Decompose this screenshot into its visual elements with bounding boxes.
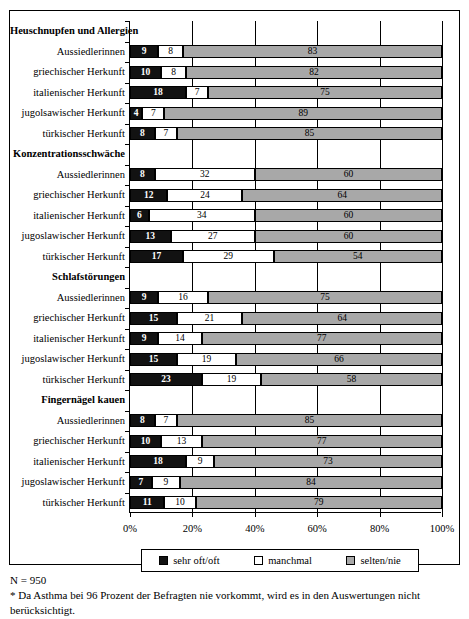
stacked-bar-row: 151966 [130, 353, 442, 366]
bar-segment-manchmal: 7 [155, 127, 177, 140]
y-axis-tick [125, 62, 130, 63]
x-axis-tick-label: 100% [430, 523, 455, 534]
bar-segment-manchmal: 24 [167, 189, 242, 202]
category-row-label: griechischer Herkunft [10, 435, 125, 447]
bar-segment-sehr-oft-oft: 8 [130, 168, 155, 181]
bar-segment-selten-nie: 60 [255, 168, 442, 181]
bar-segment-selten-nie: 83 [183, 45, 442, 58]
x-axis-tick-label: 80% [370, 523, 389, 534]
chart-footnote: N = 950 * Da Asthma bei 96 Prozent der B… [10, 573, 462, 618]
bar-segment-sehr-oft-oft: 17 [130, 250, 183, 263]
x-axis-tick [130, 512, 131, 517]
x-axis-tick [255, 512, 256, 517]
bar-segment-sehr-oft-oft: 15 [130, 312, 177, 325]
bar-segment-sehr-oft-oft: 6 [130, 209, 149, 222]
category-row-label: italienischer Herkunft [10, 210, 125, 222]
stacked-bar-row: 172954 [130, 250, 442, 263]
bar-segment-selten-nie: 77 [202, 435, 442, 448]
stacked-bar-row: 91477 [130, 332, 442, 345]
bar-segment-sehr-oft-oft: 15 [130, 353, 177, 366]
bar-segment-sehr-oft-oft: 18 [130, 455, 186, 468]
stacked-bar-row: 4789 [130, 107, 442, 120]
bar-segment-selten-nie: 85 [177, 127, 442, 140]
x-gridline [442, 21, 443, 512]
bar-segment-selten-nie: 77 [202, 332, 442, 345]
y-axis-tick [125, 165, 130, 166]
legend-item: manchmal [254, 555, 312, 566]
x-axis-tick-label: 20% [183, 523, 202, 534]
bar-segment-sehr-oft-oft: 8 [130, 127, 155, 140]
bar-segment-selten-nie: 82 [186, 66, 442, 79]
stacked-bar-row: 101377 [130, 435, 442, 448]
chart-frame: 0%20%40%60%80%100%9883108821877547898785… [9, 10, 460, 565]
y-axis-tick [125, 452, 130, 453]
y-axis-tick [125, 308, 130, 309]
category-row-label: Aussiedlerinnen [10, 169, 125, 181]
legend-label: manchmal [268, 555, 312, 566]
stacked-bar-row: 231958 [130, 373, 442, 386]
category-row-label: Aussiedlerinnen [10, 46, 125, 58]
y-axis-tick [125, 21, 130, 22]
x-axis-tick [317, 512, 318, 517]
legend-item: sehr oft/oft [159, 555, 219, 566]
stacked-bar-row: 63460 [130, 209, 442, 222]
category-row-label: griechischer Herkunft [10, 66, 125, 78]
stacked-bar-row: 111079 [130, 496, 442, 509]
bar-segment-manchmal: 9 [152, 476, 180, 489]
stacked-bar-row: 8785 [130, 414, 442, 427]
bar-segment-sehr-oft-oft: 4 [130, 107, 142, 120]
bar-segment-selten-nie: 75 [208, 291, 442, 304]
stacked-bar-row: 122464 [130, 189, 442, 202]
stacked-bar-row: 8785 [130, 127, 442, 140]
y-axis-tick [125, 83, 130, 84]
group-header-label: Heuschnupfen und Allergien [10, 25, 125, 37]
bar-segment-selten-nie: 85 [177, 414, 442, 427]
bar-segment-manchmal: 27 [171, 230, 255, 243]
bar-segment-manchmal: 10 [164, 496, 195, 509]
category-row-label: griechischer Herkunft [10, 312, 125, 324]
category-row-label: italienischer Herkunft [10, 333, 125, 345]
stacked-bar-row: 9883 [130, 45, 442, 58]
stacked-bar-row: 18775 [130, 86, 442, 99]
bar-segment-manchmal: 19 [177, 353, 236, 366]
bar-segment-manchmal: 7 [142, 107, 164, 120]
y-axis-tick [125, 472, 130, 473]
bar-segment-selten-nie: 64 [242, 312, 442, 325]
bar-segment-manchmal: 8 [158, 45, 183, 58]
stacked-bar-row: 152164 [130, 312, 442, 325]
bar-segment-selten-nie: 79 [196, 496, 442, 509]
category-row-label: italienischer Herkunft [10, 456, 125, 468]
legend-swatch-selten-nie-icon [346, 556, 355, 565]
y-axis-tick [125, 103, 130, 104]
y-axis-tick [125, 247, 130, 248]
category-row-label: jugolsawischer Herkunft [10, 107, 125, 119]
bar-segment-sehr-oft-oft: 9 [130, 332, 158, 345]
y-axis-tick [125, 226, 130, 227]
category-row-label: Aussiedlerinnen [10, 292, 125, 304]
footnote-line-asthma-1: * Da Asthma bei 96 Prozent der Befragten… [10, 588, 462, 603]
legend-item: selten/nie [346, 555, 400, 566]
bar-segment-manchmal: 8 [161, 66, 186, 79]
bar-segment-manchmal: 21 [177, 312, 243, 325]
x-axis-tick-label: 40% [245, 523, 264, 534]
x-axis-tick [380, 512, 381, 517]
category-row-label: türkischer Herkunft [10, 497, 125, 509]
y-axis-tick [125, 206, 130, 207]
bar-segment-selten-nie: 84 [180, 476, 442, 489]
stacked-bar-row: 18973 [130, 455, 442, 468]
y-axis-tick [125, 42, 130, 43]
legend-label: selten/nie [360, 555, 400, 566]
stacked-bar-row: 83260 [130, 168, 442, 181]
stacked-bar-row: 7984 [130, 476, 442, 489]
y-axis-tick [125, 411, 130, 412]
y-axis-tick [125, 124, 130, 125]
bar-segment-sehr-oft-oft: 12 [130, 189, 167, 202]
x-axis-tick-label: 0% [123, 523, 137, 534]
bar-segment-manchmal: 32 [155, 168, 255, 181]
y-axis-tick [125, 329, 130, 330]
bar-segment-selten-nie: 54 [274, 250, 442, 263]
y-axis-tick [125, 370, 130, 371]
legend-label: sehr oft/oft [173, 555, 219, 566]
category-row-label: türkischer Herkunft [10, 374, 125, 386]
bar-segment-sehr-oft-oft: 7 [130, 476, 152, 489]
